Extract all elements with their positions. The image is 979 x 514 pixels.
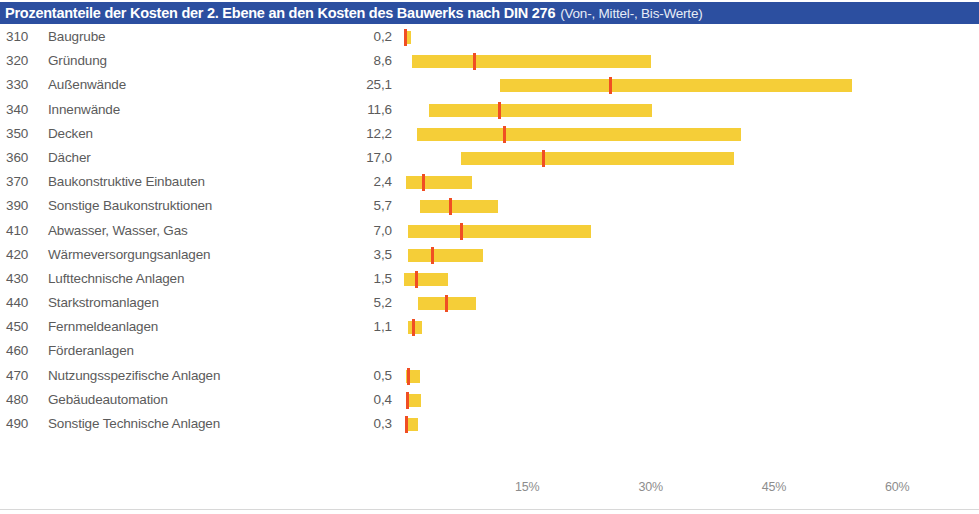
row-plot bbox=[0, 26, 979, 50]
chart-row: 450Fernmeldeanlagen1,1 bbox=[0, 316, 979, 340]
chart-row: 370Baukonstruktive Einbauten2,4 bbox=[0, 171, 979, 195]
mid-value-marker bbox=[405, 416, 408, 433]
row-plot bbox=[0, 389, 979, 413]
range-bar bbox=[408, 249, 483, 262]
chart-rows: 310Baugrube0,2320Gründung8,6330Außenwänd… bbox=[0, 26, 979, 437]
chart-row: 490Sonstige Technische Anlagen0,3 bbox=[0, 413, 979, 437]
chart-row: 480Gebäudeautomation0,4 bbox=[0, 389, 979, 413]
chart-row: 350Decken12,2 bbox=[0, 123, 979, 147]
range-bar bbox=[408, 225, 591, 238]
row-plot bbox=[0, 220, 979, 244]
mid-value-marker bbox=[431, 247, 434, 264]
row-plot bbox=[0, 195, 979, 219]
mid-value-marker bbox=[407, 368, 410, 385]
mid-value-marker bbox=[445, 295, 448, 312]
mid-value-marker bbox=[449, 198, 452, 215]
row-plot bbox=[0, 316, 979, 340]
range-bar bbox=[408, 321, 422, 334]
chart-row: 430Lufttechnische Anlagen1,5 bbox=[0, 268, 979, 292]
row-plot bbox=[0, 340, 979, 364]
range-bar bbox=[429, 104, 653, 117]
range-bar bbox=[404, 273, 448, 286]
chart-row: 410Abwasser, Wasser, Gas7,0 bbox=[0, 220, 979, 244]
mid-value-marker bbox=[498, 102, 501, 119]
x-axis: 15%30%45%60% bbox=[0, 480, 979, 498]
range-bar bbox=[412, 55, 650, 68]
row-plot bbox=[0, 74, 979, 98]
range-bar bbox=[417, 128, 741, 141]
mid-value-marker bbox=[609, 77, 612, 94]
mid-value-marker bbox=[406, 392, 409, 409]
mid-value-marker bbox=[460, 223, 463, 240]
row-plot bbox=[0, 268, 979, 292]
chart-row: 330Außenwände25,1 bbox=[0, 74, 979, 98]
mid-value-marker bbox=[404, 29, 407, 46]
range-bar bbox=[461, 152, 734, 165]
mid-value-marker bbox=[412, 319, 415, 336]
x-axis-tick-label: 45% bbox=[762, 480, 786, 494]
chart-row: 340Innenwände11,6 bbox=[0, 99, 979, 123]
chart-title: Prozentanteile der Kosten der 2. Ebene a… bbox=[0, 5, 555, 21]
x-axis-tick-label: 60% bbox=[885, 480, 909, 494]
x-axis-tick-label: 30% bbox=[638, 480, 662, 494]
row-plot bbox=[0, 244, 979, 268]
range-bar bbox=[500, 79, 852, 92]
row-plot bbox=[0, 99, 979, 123]
chart-subtitle: (Von-, Mittel-, Bis-Werte) bbox=[555, 6, 702, 21]
chart-row: 470Nutzungsspezifische Anlagen0,5 bbox=[0, 365, 979, 389]
chart-row: 320Gründung8,6 bbox=[0, 50, 979, 74]
mid-value-marker bbox=[542, 150, 545, 167]
chart-row: 310Baugrube0,2 bbox=[0, 26, 979, 50]
chart-root: Prozentanteile der Kosten der 2. Ebene a… bbox=[0, 0, 979, 514]
chart-row: 460Förderanlagen bbox=[0, 340, 979, 364]
chart-row: 360Dächer17,0 bbox=[0, 147, 979, 171]
row-plot bbox=[0, 171, 979, 195]
chart-row: 440Starkstromanlagen5,2 bbox=[0, 292, 979, 316]
chart-row: 390Sonstige Baukonstruktionen5,7 bbox=[0, 195, 979, 219]
row-plot bbox=[0, 50, 979, 74]
range-bar bbox=[406, 176, 473, 189]
row-plot bbox=[0, 413, 979, 437]
footer-divider bbox=[0, 509, 979, 510]
mid-value-marker bbox=[473, 53, 476, 70]
mid-value-marker bbox=[503, 126, 506, 143]
x-axis-tick-label: 15% bbox=[515, 480, 539, 494]
row-plot bbox=[0, 123, 979, 147]
row-plot bbox=[0, 147, 979, 171]
range-bar bbox=[420, 200, 497, 213]
chart-title-bar: Prozentanteile der Kosten der 2. Ebene a… bbox=[0, 2, 979, 24]
row-plot bbox=[0, 365, 979, 389]
row-plot bbox=[0, 292, 979, 316]
mid-value-marker bbox=[422, 174, 425, 191]
chart-row: 420Wärmeversorgungsanlagen3,5 bbox=[0, 244, 979, 268]
mid-value-marker bbox=[415, 271, 418, 288]
